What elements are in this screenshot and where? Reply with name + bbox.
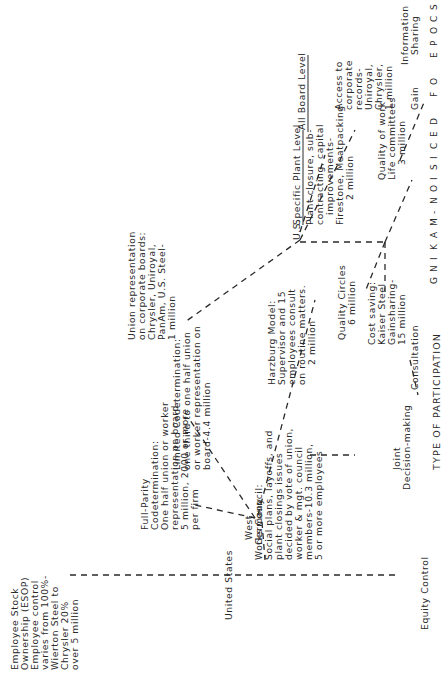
scope-letter: A — [429, 231, 439, 238]
scope-letter: E — [429, 52, 439, 58]
scope-letter: K — [429, 243, 439, 250]
node-harzburg-model: Harzburg Model: Supervisor and 15 employ… — [266, 285, 317, 385]
category-consultation: Consultation — [409, 325, 420, 390]
scope-letter: O — [429, 27, 439, 34]
participation-diagram: S C O P E O F D E C I S I O N - M A K I … — [0, 0, 448, 684]
svg-text:board-4.4 million: board-4.4 million — [201, 382, 212, 470]
svg-text:5 or more employees: 5 or more employees — [313, 451, 324, 560]
scope-letter: O — [429, 78, 439, 85]
category-equity-control: Equity Control — [419, 556, 430, 630]
united-states-label: United States — [223, 550, 234, 620]
scope-letter: P — [429, 40, 439, 46]
scope-letter: G — [429, 277, 439, 284]
participation-axis-title: TYPE OF PARTICIPATION — [431, 333, 442, 471]
scope-letter: N — [429, 197, 439, 204]
scope-level-specific-plant: Specific Plant Level — [291, 124, 303, 225]
scope-letter: - — [429, 211, 439, 214]
scope-letter: C — [429, 16, 439, 22]
svg-text:1 million: 1 million — [166, 295, 177, 340]
svg-text:3 million: 3 million — [396, 120, 407, 165]
scope-letter: I — [429, 257, 439, 260]
category-gain: Gain — [409, 86, 420, 110]
svg-text:6 million: 6 million — [346, 280, 357, 325]
node-quality-of-work-life: Quality of work Life committees 3 millio… — [376, 97, 407, 180]
scope-letter: S — [429, 164, 439, 170]
scope-letter: I — [429, 156, 439, 159]
node-works-council: Works Council: Social plans, layoffs, an… — [253, 428, 324, 560]
scope-letter: N — [429, 265, 439, 272]
svg-text:2 million: 2 million — [344, 155, 355, 200]
node-esop: Employee Stock Ownership (ESOP) Employee… — [9, 575, 80, 670]
svg-text:per firm: per firm — [189, 489, 200, 530]
svg-text:2 million: 2 million — [306, 320, 317, 365]
scope-letter: I — [429, 177, 439, 180]
node-plant-closure: Plant closure, sub- contracting, capital… — [304, 105, 355, 225]
scope-letter: F — [429, 92, 439, 97]
scope-level-all-board: All Board Level — [296, 53, 308, 132]
svg-text:15 million: 15 million — [396, 294, 407, 345]
scope-letter: S — [429, 4, 439, 10]
node-cost-saving: Cost saving: Kaiser Steel Gainsharing- 1… — [366, 279, 407, 345]
scope-letter: C — [429, 143, 439, 149]
category-sharing: Sharing — [409, 16, 420, 55]
specific-plant-level-label: Specific Plant Level — [291, 124, 302, 225]
scope-letter: E — [429, 131, 439, 137]
connector-hub-qwl — [385, 180, 412, 242]
scope-letter: O — [429, 185, 439, 192]
node-quality-circles: Quality Circles 6 million — [336, 265, 357, 340]
scope-axis-title: S C O P E O F D E C I S I O N - M A K I … — [429, 4, 439, 284]
svg-text:over 5 million: over 5 million — [69, 599, 80, 670]
all-board-level-label: All Board Level — [296, 53, 307, 130]
scope-letter: D — [429, 118, 439, 125]
node-union-representation: Union representation on corporate boards… — [126, 231, 177, 340]
scope-letter: M — [429, 218, 439, 226]
us-node-label: U.S. — [291, 219, 302, 240]
category-joint-2: Decision-making — [401, 404, 412, 490]
